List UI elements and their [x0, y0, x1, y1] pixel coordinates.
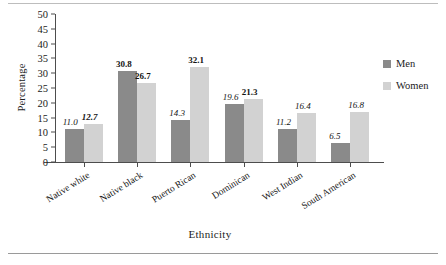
bar-value-label: 26.7: [135, 71, 151, 81]
bar-group: 6.516.8: [331, 14, 369, 162]
y-axis-tick-label: 30: [8, 68, 55, 79]
legend-item-label: Men: [396, 58, 415, 69]
y-axis-tick-label: 40: [8, 38, 55, 49]
x-axis-title: Ethnicity: [0, 228, 420, 240]
legend-item-label: Women: [396, 80, 428, 91]
bar-women[interactable]: [244, 99, 263, 162]
bar-men[interactable]: [278, 129, 297, 162]
y-axis-tick-mark: [51, 102, 55, 103]
x-axis-category-label: West Indian: [246, 170, 304, 211]
bar-value-label: 12.7: [82, 112, 98, 122]
bar-men[interactable]: [331, 143, 350, 162]
y-axis-tick-mark: [51, 43, 55, 44]
x-axis-category-label: South American: [300, 170, 358, 211]
x-axis-line: [44, 162, 384, 163]
bar-men[interactable]: [171, 120, 190, 162]
y-axis-tick-label: 20: [8, 97, 55, 108]
bar-women[interactable]: [137, 83, 156, 162]
x-axis-category-label: Dominican: [193, 170, 251, 211]
bar-men[interactable]: [65, 129, 84, 162]
x-axis-category-label: Native white: [33, 170, 91, 211]
chart-legend: MenWomen: [383, 58, 428, 102]
y-axis-tick-mark: [51, 58, 55, 59]
bar-group: 30.826.7: [118, 14, 156, 162]
legend-swatch-icon: [383, 82, 391, 90]
x-axis-tick-mark: [137, 163, 138, 167]
bar-chart-figure: Percentage Ethnicity 0510152025303540455…: [0, 0, 446, 265]
bar-value-label: 21.3: [242, 87, 258, 97]
y-axis-tick-mark: [51, 117, 55, 118]
top-divider-rule: [8, 3, 438, 4]
x-axis-category-label: Native black: [86, 170, 144, 211]
bar-women[interactable]: [350, 112, 369, 162]
y-axis-tick-mark: [51, 73, 55, 74]
bar-women[interactable]: [190, 67, 209, 162]
plot-area: 0510152025303540455011.012.7Native white…: [55, 14, 375, 162]
bar-value-label: 11.0: [63, 117, 78, 127]
y-axis-tick-mark: [51, 147, 55, 148]
y-axis-tick-label: 25: [8, 83, 55, 94]
y-axis-tick-label: 0: [8, 157, 55, 168]
bar-value-label: 30.8: [116, 59, 132, 69]
bar-value-label: 16.8: [348, 100, 364, 110]
bar-value-label: 16.4: [295, 101, 311, 111]
bar-value-label: 11.2: [276, 117, 291, 127]
y-axis-tick-label: 35: [8, 53, 55, 64]
bar-men[interactable]: [225, 104, 244, 162]
bar-group: 11.216.4: [278, 14, 316, 162]
y-axis-tick-mark: [51, 14, 55, 15]
bar-value-label: 19.6: [223, 92, 239, 102]
bar-women[interactable]: [297, 113, 316, 162]
y-axis-tick-label: 5: [8, 142, 55, 153]
x-axis-tick-mark: [297, 163, 298, 167]
y-axis-tick-label: 45: [8, 23, 55, 34]
bar-value-label: 14.3: [169, 108, 185, 118]
x-axis-tick-mark: [84, 163, 85, 167]
bar-women[interactable]: [84, 124, 103, 162]
legend-item[interactable]: Men: [383, 58, 428, 69]
bar-men[interactable]: [118, 71, 137, 162]
y-axis-tick-mark: [51, 28, 55, 29]
bar-value-label: 32.1: [188, 55, 204, 65]
y-axis-tick-mark: [51, 162, 55, 163]
y-axis-tick-label: 15: [8, 112, 55, 123]
bar-group: 14.332.1: [171, 14, 209, 162]
bar-group: 11.012.7: [65, 14, 103, 162]
legend-swatch-icon: [383, 60, 391, 68]
bottom-divider-rule: [8, 253, 438, 254]
bar-value-label: 6.5: [329, 131, 340, 141]
bar-group: 19.621.3: [225, 14, 263, 162]
y-axis-tick-label: 10: [8, 127, 55, 138]
x-axis-tick-mark: [350, 163, 351, 167]
x-axis-category-label: Puerto Rican: [140, 170, 198, 211]
y-axis-tick-mark: [51, 132, 55, 133]
y-axis-tick-label: 50: [8, 9, 55, 20]
legend-item[interactable]: Women: [383, 80, 428, 91]
y-axis-tick-mark: [51, 88, 55, 89]
x-axis-tick-mark: [244, 163, 245, 167]
x-axis-tick-mark: [190, 163, 191, 167]
